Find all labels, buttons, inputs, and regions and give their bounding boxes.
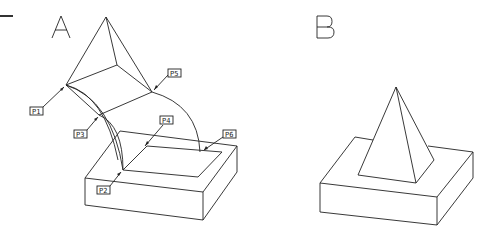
view-a-sweep-path bbox=[66, 85, 200, 170]
svg-text:P3: P3 bbox=[76, 131, 84, 139]
point-label-p1: P1 bbox=[30, 107, 43, 116]
point-label-p4: P4 bbox=[160, 116, 173, 125]
svg-text:P1: P1 bbox=[32, 108, 40, 116]
point-label-p5: P5 bbox=[168, 69, 181, 78]
diagram-canvas: A bbox=[0, 0, 493, 235]
point-label-p6: P6 bbox=[223, 130, 236, 139]
view-b-pyramid bbox=[358, 87, 434, 183]
view-b-label bbox=[317, 16, 334, 38]
view-a-label bbox=[52, 16, 70, 38]
svg-text:P6: P6 bbox=[225, 131, 233, 139]
svg-text:P5: P5 bbox=[170, 70, 178, 78]
point-label-p3: P3 bbox=[74, 130, 87, 139]
svg-text:P2: P2 bbox=[99, 187, 107, 195]
view-a-box bbox=[85, 131, 237, 220]
view-a-pyramid bbox=[66, 17, 152, 115]
point-label-p2: P2 bbox=[97, 186, 110, 195]
view-b-box bbox=[320, 137, 473, 225]
svg-text:P4: P4 bbox=[162, 117, 170, 125]
